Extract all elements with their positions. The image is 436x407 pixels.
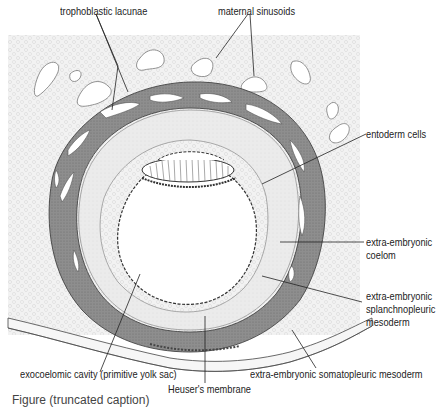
label-extra-embryonic-coelom-line2: coelom — [366, 249, 396, 261]
label-extra-embryonic-coelom-line1: extra-embryonic — [366, 236, 432, 248]
label-entoderm-cells: entoderm cells — [366, 128, 426, 140]
label-heusers-membrane: Heuser's membrane — [168, 383, 251, 395]
figure-caption-truncated: Figure (truncated caption) — [12, 393, 149, 407]
label-splanchnopleuric-line2: splanchnopleuric — [366, 303, 435, 315]
label-maternal-sinusoids: maternal sinusoids — [218, 5, 295, 17]
label-exocoelomic-cavity: exocoelomic cavity (primitive yolk sac) — [20, 368, 177, 380]
label-trophoblastic-lacunae: trophoblastic lacunae — [60, 5, 147, 17]
label-splanchnopleuric-line1: extra-embryonic — [366, 290, 432, 302]
label-splanchnopleuric-line3: mesoderm — [366, 316, 410, 328]
label-somatopleuric-mesoderm: extra-embryonic somatopleuric mesoderm — [250, 368, 423, 380]
